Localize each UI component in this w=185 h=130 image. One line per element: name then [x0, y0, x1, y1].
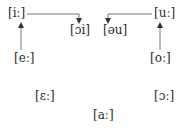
- vowel-label-oo: [oː]: [150, 51, 171, 65]
- vowel-label-ee: [eː]: [14, 51, 35, 65]
- vowel-label-oi: [ɔi]: [70, 23, 90, 37]
- vowel-label-uu: [uː]: [154, 6, 175, 20]
- vowel-shift-diagram: [iː] [ɔi] [əu] [uː] [eː] [oː] [ɛː] [ɔː] …: [0, 0, 185, 130]
- vowel-label-aa: [aː]: [93, 108, 114, 122]
- vowel-label-ii: [iː]: [8, 6, 25, 20]
- vowel-label-au: [əu]: [103, 23, 127, 37]
- arrow-oo-to-uu: [157, 22, 163, 50]
- vowel-label-open-o: [ɔː]: [154, 89, 174, 103]
- vowel-label-open-e: [ɛː]: [35, 89, 55, 103]
- arrow-ee-to-ii: [18, 22, 24, 50]
